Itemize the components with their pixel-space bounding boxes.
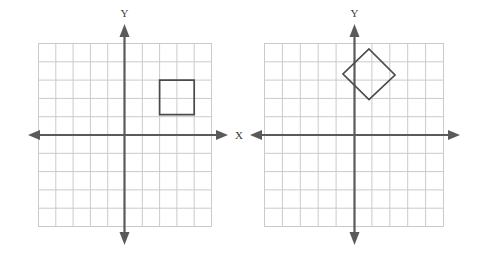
square-image-rotated-shape (343, 49, 395, 100)
figure-canvas: Y X (0, 0, 485, 255)
right-y-axis-arrow-up (350, 24, 360, 37)
left-x-axis-arrow-left (28, 130, 40, 140)
right-x-axis-arrow-left (250, 130, 262, 140)
left-y-axis-arrow-down (120, 232, 130, 245)
right-y-axis-arrow-down (350, 232, 360, 245)
right-plot-y-axis-label: Y (351, 7, 359, 19)
shared-x-axis-label: X (235, 129, 243, 141)
right-x-axis-arrow-right (448, 130, 460, 140)
left-y-axis-arrow-up (120, 24, 130, 37)
coordinate-grid-figure: Y X (0, 0, 485, 255)
left-plot-y-axis-label: Y (121, 7, 129, 19)
right-plot: Y (250, 7, 460, 245)
left-x-axis-arrow-right (216, 130, 228, 140)
left-plot-x-axis (28, 130, 228, 140)
left-plot: Y (28, 7, 228, 245)
